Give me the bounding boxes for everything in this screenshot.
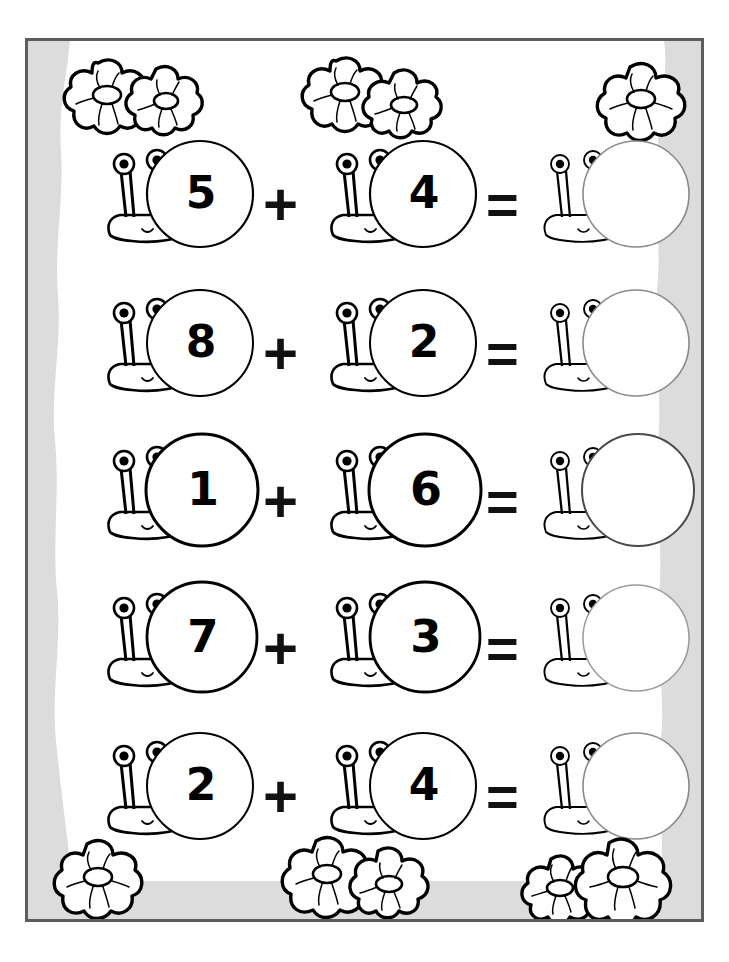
snail-addend-1: 7 xyxy=(90,581,255,699)
snail-addend-2: 4 xyxy=(313,729,478,847)
snail-addend-2: 6 xyxy=(313,434,478,552)
equation-row: 1 + xyxy=(28,434,701,554)
equation-row: 5 + xyxy=(28,137,701,257)
worksheet-frame: 5 + xyxy=(25,38,704,922)
addend-1-value: 8 xyxy=(175,316,227,367)
addend-1-value: 1 xyxy=(177,462,229,516)
snail-addend-1: 2 xyxy=(90,729,255,847)
plus-icon: + xyxy=(263,324,298,384)
equation-row: 7 + xyxy=(28,581,701,701)
plus-icon: + xyxy=(263,767,298,827)
plus-icon: + xyxy=(263,472,298,532)
plus-icon: + xyxy=(263,175,298,235)
equation-list: 5 + xyxy=(28,41,701,919)
snail-addend-2: 3 xyxy=(313,581,478,699)
worksheet-page: 5 + xyxy=(0,0,729,962)
addend-2-value: 2 xyxy=(398,316,450,367)
equals-icon: = xyxy=(486,621,519,677)
plus-icon: + xyxy=(263,619,298,679)
snail-addend-2: 2 xyxy=(313,286,478,404)
decoration-flower-bottom-center xyxy=(288,831,440,917)
equals-icon: = xyxy=(486,326,519,382)
addend-1-value: 7 xyxy=(177,610,229,663)
snail-addend-1: 8 xyxy=(90,286,255,404)
snail-answer[interactable] xyxy=(526,729,691,847)
addend-2-value: 4 xyxy=(398,759,450,810)
addend-2-value: 3 xyxy=(400,610,452,663)
snail-addend-1: 1 xyxy=(90,434,255,552)
equals-icon: = xyxy=(486,474,519,530)
snail-answer[interactable] xyxy=(526,581,691,699)
equals-icon: = xyxy=(486,769,519,825)
snail-answer[interactable] xyxy=(526,286,691,404)
snail-addend-1: 5 xyxy=(90,137,255,255)
equals-icon: = xyxy=(486,177,519,233)
snail-answer[interactable] xyxy=(526,137,691,255)
addend-2-value: 6 xyxy=(400,462,452,516)
decoration-flower-bottom-right xyxy=(524,831,684,921)
decoration-flower-bottom-left xyxy=(56,836,148,918)
addend-2-value: 4 xyxy=(398,167,450,218)
addend-1-value: 2 xyxy=(175,759,227,810)
equation-row: 8 + xyxy=(28,286,701,406)
snail-addend-2: 4 xyxy=(313,137,478,255)
addend-1-value: 5 xyxy=(175,167,227,218)
snail-answer[interactable] xyxy=(526,434,691,552)
